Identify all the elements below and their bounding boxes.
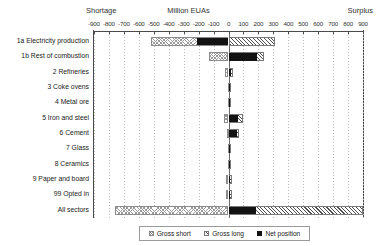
category-label: 99 Opted in [54,191,89,198]
chart-row: 7 Glass [94,141,363,156]
net-position-bar [229,115,238,122]
x-tick-label: 0 [227,20,230,27]
x-tick-label: -200 [193,20,205,27]
net-position-bar [229,191,231,198]
gross-long-bar [229,37,275,46]
x-tick-label: -400 [163,20,175,27]
legend-item-net-position: Net position [257,230,300,237]
chart-row: 1b Rest of combustion [94,49,363,64]
category-label: 4 Metal ore [55,99,89,106]
category-label: 8 Ceramics [55,161,89,168]
category-label: 1b Rest of combustion [21,53,89,60]
x-tick-mark [94,31,95,34]
net-position-bar [229,69,231,76]
x-tick-mark [348,31,349,34]
x-tick-mark [199,31,200,34]
net-position-bar [229,99,230,106]
net-position-bar [229,53,257,60]
chart-legend: Gross short Gross long Net position [139,226,310,241]
chart-row: 99 Opted in [94,187,363,202]
x-tick-label: -700 [118,20,130,27]
x-tick-label: -600 [133,20,145,27]
x-tick-label: 800 [343,20,353,27]
x-tick-label: 200 [254,20,264,27]
x-tick-mark [139,31,140,34]
plot-area: 1a Electricity production1b Rest of comb… [94,34,363,218]
x-tick-mark [184,31,185,34]
x-tick-mark [273,31,274,34]
category-label: 7 Glass [66,145,89,152]
net-position-bar [229,84,230,91]
unit-label: Million EUAs [0,6,377,17]
chart-row: 3 Coke ovens [94,80,363,95]
x-tick-mark [154,31,155,34]
net-position-bar [229,130,238,137]
chart-row: 9 Paper and board [94,172,363,187]
x-tick-label: 400 [283,20,293,27]
x-tick-mark [363,31,364,34]
chart-row: 5 Iron and steel [94,111,363,126]
legend-label-gross-short: Gross short [157,230,191,237]
gross-short-bar [115,206,229,215]
chart-row: 1a Electricity production [94,34,363,49]
gross-short-bar [209,52,228,61]
net-position-bar [229,176,230,183]
gridline [363,34,364,218]
chart-row: 6 Cement [94,126,363,141]
chart-row: 4 Metal ore [94,95,363,110]
x-tick-label: 300 [268,20,278,27]
x-tick-mark [124,31,125,34]
x-tick-label: 600 [313,20,323,27]
gross-long-swatch-icon [204,231,209,236]
x-tick-label: -800 [103,20,115,27]
surplus-label: Surplus [348,6,373,17]
x-tick-mark [318,31,319,34]
x-tick-label: 700 [328,20,338,27]
x-axis-tick-labels: -900-800-700-600-500-400-300-200-1000100… [0,20,377,30]
x-tick-mark [333,31,334,34]
category-label: 3 Coke ovens [47,84,89,91]
net-position-bar [229,161,230,168]
chart-row: All sectors [94,203,363,218]
x-tick-mark [288,31,289,34]
chart-row: 2 Refineries [94,65,363,80]
chart-row: 8 Ceramics [94,157,363,172]
x-tick-mark [214,31,215,34]
x-tick-mark [243,31,244,34]
x-tick-label: -500 [148,20,160,27]
legend-item-gross-short: Gross short [149,230,191,237]
x-tick-label: -100 [208,20,220,27]
net-position-swatch-icon [257,231,262,236]
chart-container: Shortage Million EUAs Surplus -900-800-7… [0,0,377,246]
category-label: 6 Cement [60,130,89,137]
legend-label-gross-long: Gross long [212,230,244,237]
x-tick-label: 100 [239,20,249,27]
x-tick-mark [229,31,230,34]
category-label: 9 Paper and board [33,176,89,183]
x-tick-mark [109,31,110,34]
x-tick-label: 900 [358,20,368,27]
category-label: 5 Iron and steel [42,115,89,122]
gross-short-swatch-icon [149,231,154,236]
category-label: 1a Electricity production [17,38,89,45]
x-tick-mark [303,31,304,34]
x-tick-label: -300 [178,20,190,27]
legend-item-gross-long: Gross long [204,230,244,237]
net-position-bar [197,38,228,45]
category-label: 2 Refineries [53,69,89,76]
x-tick-label: 500 [298,20,308,27]
net-position-bar [229,145,230,152]
category-label: All sectors [58,207,89,214]
net-position-bar [229,207,257,214]
legend-label-net-position: Net position [265,230,300,237]
x-tick-label: -900 [88,20,100,27]
x-tick-mark [169,31,170,34]
x-tick-mark [258,31,259,34]
